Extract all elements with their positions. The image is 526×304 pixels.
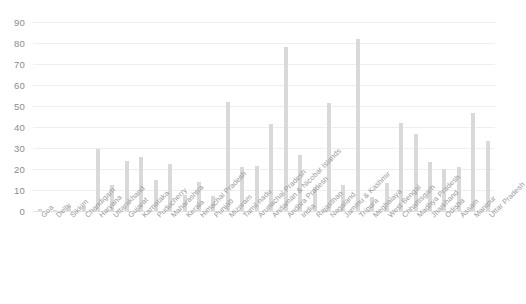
bar-slot <box>62 22 76 211</box>
bar-slot <box>466 22 480 211</box>
y-tick-label-50: 50 <box>14 101 25 112</box>
y-axis: 9080706050403020100 <box>0 22 30 211</box>
y-tick-label-30: 30 <box>14 143 25 154</box>
bar-slot <box>264 22 278 211</box>
bar-slot <box>134 22 148 211</box>
bar-slot <box>91 22 105 211</box>
bar-slot <box>33 22 47 211</box>
y-tick-label-70: 70 <box>14 59 25 70</box>
bar-slot <box>47 22 61 211</box>
bar-series <box>33 22 495 211</box>
y-tick-label-80: 80 <box>14 38 25 49</box>
bar-slot <box>105 22 119 211</box>
y-tick-label-10: 10 <box>14 185 25 196</box>
y-tick-label-0: 0 <box>20 206 25 217</box>
y-tick-label-90: 90 <box>14 17 25 28</box>
bar-slot <box>336 22 350 211</box>
bar-slot <box>76 22 90 211</box>
x-axis: GoaDelhiSikkimChandigarhHaryanaUttarakha… <box>33 213 495 301</box>
plot-area <box>33 22 495 211</box>
y-tick-label-60: 60 <box>14 80 25 91</box>
bar-slot <box>481 22 495 211</box>
bar-slot <box>206 22 220 211</box>
bar-slot <box>120 22 134 211</box>
y-tick-label-40: 40 <box>14 122 25 133</box>
bar-slot <box>394 22 408 211</box>
bar-slot <box>149 22 163 211</box>
bar-slot <box>250 22 264 211</box>
bar-slot <box>163 22 177 211</box>
y-tick-label-20: 20 <box>14 164 25 175</box>
bar <box>356 39 360 211</box>
bar-slot <box>177 22 191 211</box>
bar-slot <box>351 22 365 211</box>
